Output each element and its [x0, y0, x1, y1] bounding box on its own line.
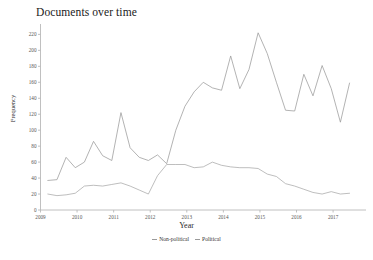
chart-container: Documents over time Frequency Year 02040…: [0, 0, 373, 260]
legend-label: Political: [202, 236, 221, 242]
x-axis-tick-label: 2017: [328, 214, 339, 220]
y-axis-tick-label: 180: [29, 63, 37, 69]
y-axis-tick-label: 20: [31, 191, 37, 197]
x-axis-tick-label: 2014: [218, 214, 229, 220]
chart-legend: Non-politicalPolitical: [0, 236, 373, 242]
y-axis-tick-label: 60: [31, 159, 37, 165]
x-axis-tick-label: 2011: [109, 214, 120, 220]
series-line-political: [48, 162, 350, 196]
legend-item-political: Political: [195, 236, 221, 242]
legend-swatch-icon: [195, 239, 200, 240]
y-axis-tick-label: 0: [34, 207, 37, 213]
x-axis-tick-label: 2010: [72, 214, 83, 220]
legend-item-non-political: Non-political: [152, 236, 189, 242]
y-axis-tick-label: 40: [31, 175, 37, 181]
series-line-non-political: [48, 33, 350, 181]
x-axis-tick-label: 2012: [145, 214, 156, 220]
y-axis-tick-label: 120: [29, 111, 37, 117]
legend-label: Non-political: [159, 236, 189, 242]
x-axis-tick-label: 2015: [255, 214, 266, 220]
y-axis-tick-label: 80: [31, 143, 37, 149]
x-axis-tick-label: 2016: [291, 214, 302, 220]
y-axis-tick-label: 100: [29, 127, 37, 133]
y-axis-tick-label: 220: [29, 31, 37, 37]
y-axis-tick-label: 140: [29, 95, 37, 101]
x-axis-tick-label: 2013: [182, 214, 193, 220]
legend-swatch-icon: [152, 239, 157, 240]
x-axis-tick-label: 2009: [35, 214, 46, 220]
chart-plot-area: 0204060801001201401601802002202009201020…: [0, 0, 373, 260]
y-axis-tick-label: 200: [29, 47, 37, 53]
y-axis-tick-label: 160: [29, 79, 37, 85]
